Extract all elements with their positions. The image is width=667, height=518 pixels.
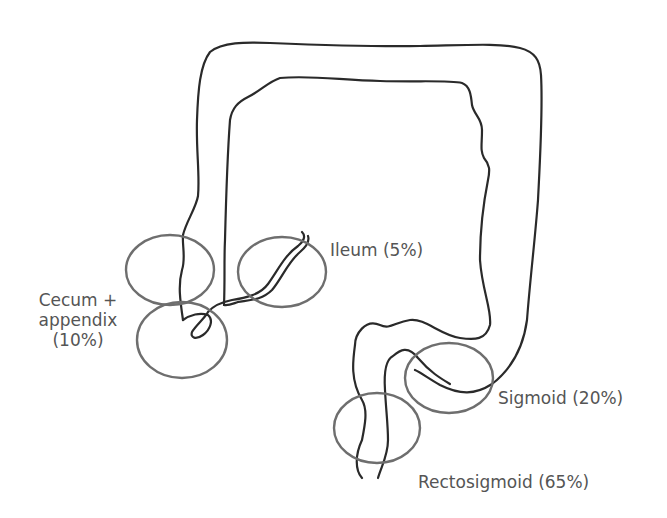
- colon-diagram: Ileum (5%) Cecum + appendix (10%) Sigmoi…: [0, 0, 667, 518]
- label-cecum-appendix: Cecum + appendix (10%): [28, 290, 128, 350]
- site-circle-ileum: [238, 237, 326, 307]
- label-ileum: Ileum (5%): [330, 240, 423, 260]
- site-circle-cecum-upper: [126, 235, 214, 305]
- colon-inner-wall: [224, 77, 490, 478]
- label-cecum-line3: (10%): [28, 330, 128, 350]
- site-circle-rectosigmoid: [334, 393, 420, 463]
- label-cecum-line1: Cecum +: [28, 290, 128, 310]
- colon-outer-wall: [180, 43, 542, 393]
- label-sigmoid: Sigmoid (20%): [498, 388, 623, 408]
- label-rectosigmoid: Rectosigmoid (65%): [418, 472, 589, 492]
- site-circle-sigmoid: [405, 343, 493, 413]
- label-cecum-line2: appendix: [28, 310, 128, 330]
- ileocecal-junction: [183, 232, 309, 338]
- rectum-wall: [378, 350, 450, 478]
